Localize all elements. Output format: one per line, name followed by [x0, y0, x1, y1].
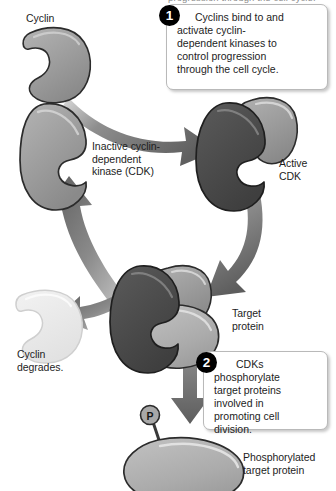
callout-box-2: CDKsphosphorylatetarget proteinsinvolved…	[203, 351, 328, 430]
shape-cdk-active-complex	[196, 98, 297, 211]
label-cyclin: Cyclin	[26, 12, 54, 25]
shape-cyclin-free	[23, 28, 90, 103]
cell-cycle-diagram: progression through the cell cycle.	[0, 0, 336, 491]
label-inactive-cdk: Inactive cyclin- dependent kinase (CDK)	[92, 140, 160, 178]
label-target-protein: Target protein	[232, 307, 264, 332]
callout-badge-2: 2	[196, 352, 217, 373]
shape-cdk-active	[196, 103, 265, 211]
shape-cdk-inactive	[20, 104, 86, 210]
callout-box-1: Cyclins bind to andactivate cyclin-depen…	[166, 4, 328, 90]
callout-badge-1: 1	[159, 5, 180, 26]
callout-1-text: Cyclins bind to andactivate cyclin-depen…	[177, 11, 319, 76]
label-phosphorylated-target-protein: Phosphorylated target protein	[243, 451, 315, 476]
phosphate-label: P	[146, 410, 153, 422]
shape-cdk-active-lower	[110, 266, 179, 373]
callout-2-text: CDKsphosphorylatetarget proteinsinvolved…	[214, 358, 319, 436]
label-cyclin-degrades: Cyclin degrades.	[17, 348, 63, 373]
label-active-cdk: Active CDK	[279, 157, 307, 182]
